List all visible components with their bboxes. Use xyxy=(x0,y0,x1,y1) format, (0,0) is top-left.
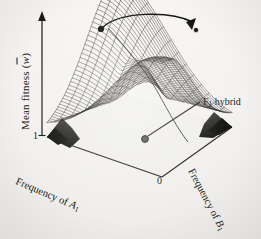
tick-label-origin-zero: 0 xyxy=(157,176,162,186)
axis-arrow-icon xyxy=(38,11,46,21)
f1-hybrid-marker xyxy=(142,136,149,143)
peak-marker-right xyxy=(193,27,198,32)
y-axis-label-text: Mean fitness ( xyxy=(19,64,31,130)
overbar xyxy=(17,58,18,65)
y-axis-symbol: w xyxy=(19,57,31,65)
f1-hybrid-label: F1 hybrid xyxy=(203,97,241,109)
tick-label-right-one: 1 xyxy=(219,122,224,132)
figure-adaptive-landscape: Mean fitness (w) Frequency of A1 Frequen… xyxy=(0,0,261,239)
f1-hybrid-label-suffix: hybrid xyxy=(212,96,241,107)
plot-area xyxy=(0,0,261,239)
tick-label-left-one: 1 xyxy=(33,131,38,141)
vertical-axis xyxy=(38,11,46,136)
peak-marker-left xyxy=(98,26,104,32)
y-axis-label: Mean fitness (w) xyxy=(20,37,31,147)
landscape-svg xyxy=(0,0,261,239)
